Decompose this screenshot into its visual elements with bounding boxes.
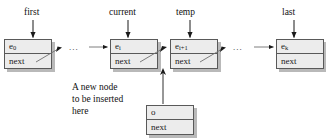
linked-list-insertion-diagram: first current temp last e0 next ei next … <box>0 0 326 139</box>
link-line-ei1 <box>200 49 222 62</box>
link-line-ei <box>140 49 162 62</box>
ellipsis-2: ... <box>233 42 243 52</box>
ellipsis-1: ... <box>69 42 79 52</box>
link-arrowhead-e0 <box>56 47 62 53</box>
link-line-e0 <box>36 49 58 62</box>
link-arrowhead-ei <box>160 46 167 52</box>
link-arrowhead-ei1 <box>220 47 226 53</box>
arrows-overlay: ... ... <box>0 0 326 139</box>
